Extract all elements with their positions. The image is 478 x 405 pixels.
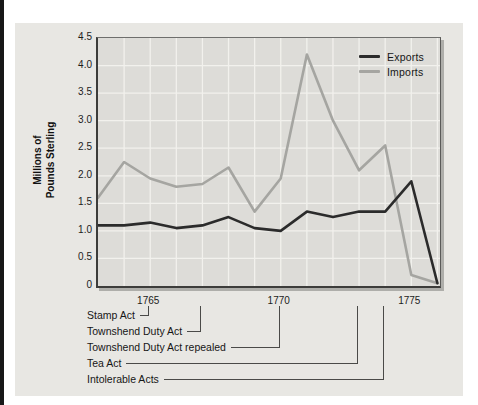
y-axis-title-line2: Pounds Sterling bbox=[44, 95, 57, 225]
annotation-label: Stamp Act bbox=[87, 309, 135, 322]
legend-label-exports: Exports bbox=[387, 51, 424, 63]
y-axis-title-line1: Millions of bbox=[31, 95, 44, 225]
y-axis-title: Millions of Pounds Sterling bbox=[31, 95, 59, 225]
x-tick-label: 1765 bbox=[128, 295, 168, 306]
y-tick-label: 0.5 bbox=[58, 251, 92, 263]
y-tick-label: 4.0 bbox=[58, 59, 92, 71]
page-edge-stripe bbox=[0, 0, 4, 405]
annotation-label: Townshend Duty Act bbox=[87, 325, 182, 338]
annotation-label: Townshend Duty Act repealed bbox=[87, 341, 226, 354]
annotation-connector-vertical bbox=[383, 306, 384, 380]
y-tick-label: 2.5 bbox=[58, 141, 92, 153]
annotation-label: Intolerable Acts bbox=[87, 373, 159, 386]
y-tick-label: 1.5 bbox=[58, 196, 92, 208]
y-tick-label: 3.5 bbox=[58, 86, 92, 98]
annotation-label: Tea Act bbox=[87, 357, 121, 370]
annotation-connector-vertical bbox=[148, 306, 149, 316]
y-tick-label: 0 bbox=[58, 279, 92, 291]
annotation-connector-vertical bbox=[200, 306, 201, 332]
annotation-connector-horizontal bbox=[164, 379, 384, 380]
y-tick-label: 4.5 bbox=[58, 31, 92, 43]
page: Millions of Pounds Sterling Exports Impo… bbox=[0, 0, 478, 405]
y-tick-label: 3.0 bbox=[58, 114, 92, 126]
imports-line-swatch bbox=[359, 70, 380, 73]
annotation-connector-horizontal bbox=[231, 347, 280, 348]
y-tick-label: 1.0 bbox=[58, 224, 92, 236]
annotation-connector-vertical bbox=[357, 306, 358, 364]
annotation-connector-horizontal bbox=[187, 331, 201, 332]
y-tick-label: 2.0 bbox=[58, 169, 92, 181]
legend-item-exports: Exports bbox=[359, 49, 424, 64]
x-tick-label: 1770 bbox=[259, 295, 299, 306]
exports-line-swatch bbox=[359, 55, 380, 58]
plot-area: Exports Imports bbox=[96, 37, 441, 288]
legend-item-imports: Imports bbox=[359, 64, 424, 79]
annotation-connector-vertical bbox=[279, 306, 280, 348]
annotation-connector-horizontal bbox=[126, 363, 358, 364]
legend: Exports Imports bbox=[359, 49, 424, 79]
x-tick-label: 1775 bbox=[389, 295, 429, 306]
legend-label-imports: Imports bbox=[387, 66, 423, 78]
